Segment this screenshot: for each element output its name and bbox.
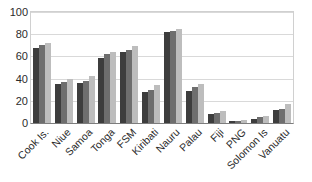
bar	[176, 29, 182, 123]
y-tick-label: 60	[2, 51, 28, 62]
x-label-slot: Tonga	[96, 126, 118, 182]
bar	[132, 46, 138, 123]
bar	[241, 120, 247, 123]
x-label-slot: Fiji	[206, 126, 228, 182]
x-label-slot: Samoa	[75, 126, 97, 182]
bar	[89, 76, 95, 123]
bar	[45, 43, 51, 123]
bar-group	[75, 12, 97, 123]
bars-layer	[31, 12, 293, 123]
bar	[285, 104, 291, 123]
y-tick-label: 20	[2, 96, 28, 107]
bar-group	[140, 12, 162, 123]
x-axis-labels: Cook Is.NiueSamoaTongaFSMKiribatiNauruPa…	[31, 126, 293, 182]
bar-group	[227, 12, 249, 123]
x-label-slot: Vanuatu	[271, 126, 293, 182]
x-label-slot: Palau	[184, 126, 206, 182]
bar-group	[53, 12, 75, 123]
bar-group	[184, 12, 206, 123]
bar-group	[271, 12, 293, 123]
bar-group	[162, 12, 184, 123]
bar	[154, 85, 160, 123]
x-label-slot: Cook Is.	[31, 126, 53, 182]
y-axis: 100806040200	[0, 11, 28, 124]
y-tick-label: 0	[2, 118, 28, 129]
bar-chart: 100806040200 Cook Is.NiueSamoaTongaFSMKi…	[0, 0, 312, 182]
bar-group	[118, 12, 140, 123]
bar	[263, 116, 269, 123]
bar	[110, 52, 116, 123]
bar-group	[249, 12, 271, 123]
y-tick-label: 80	[2, 29, 28, 40]
bar-group	[96, 12, 118, 123]
y-tick-label: 40	[2, 74, 28, 85]
x-tick-label: Cook Is.	[16, 127, 51, 162]
bar-group	[206, 12, 228, 123]
bar	[67, 79, 73, 123]
bar	[198, 84, 204, 123]
bar-group	[31, 12, 53, 123]
x-label-slot: Nauru	[162, 126, 184, 182]
y-tick-label: 100	[2, 7, 28, 18]
bar	[220, 111, 226, 123]
x-label-slot: Kiribati	[140, 126, 162, 182]
